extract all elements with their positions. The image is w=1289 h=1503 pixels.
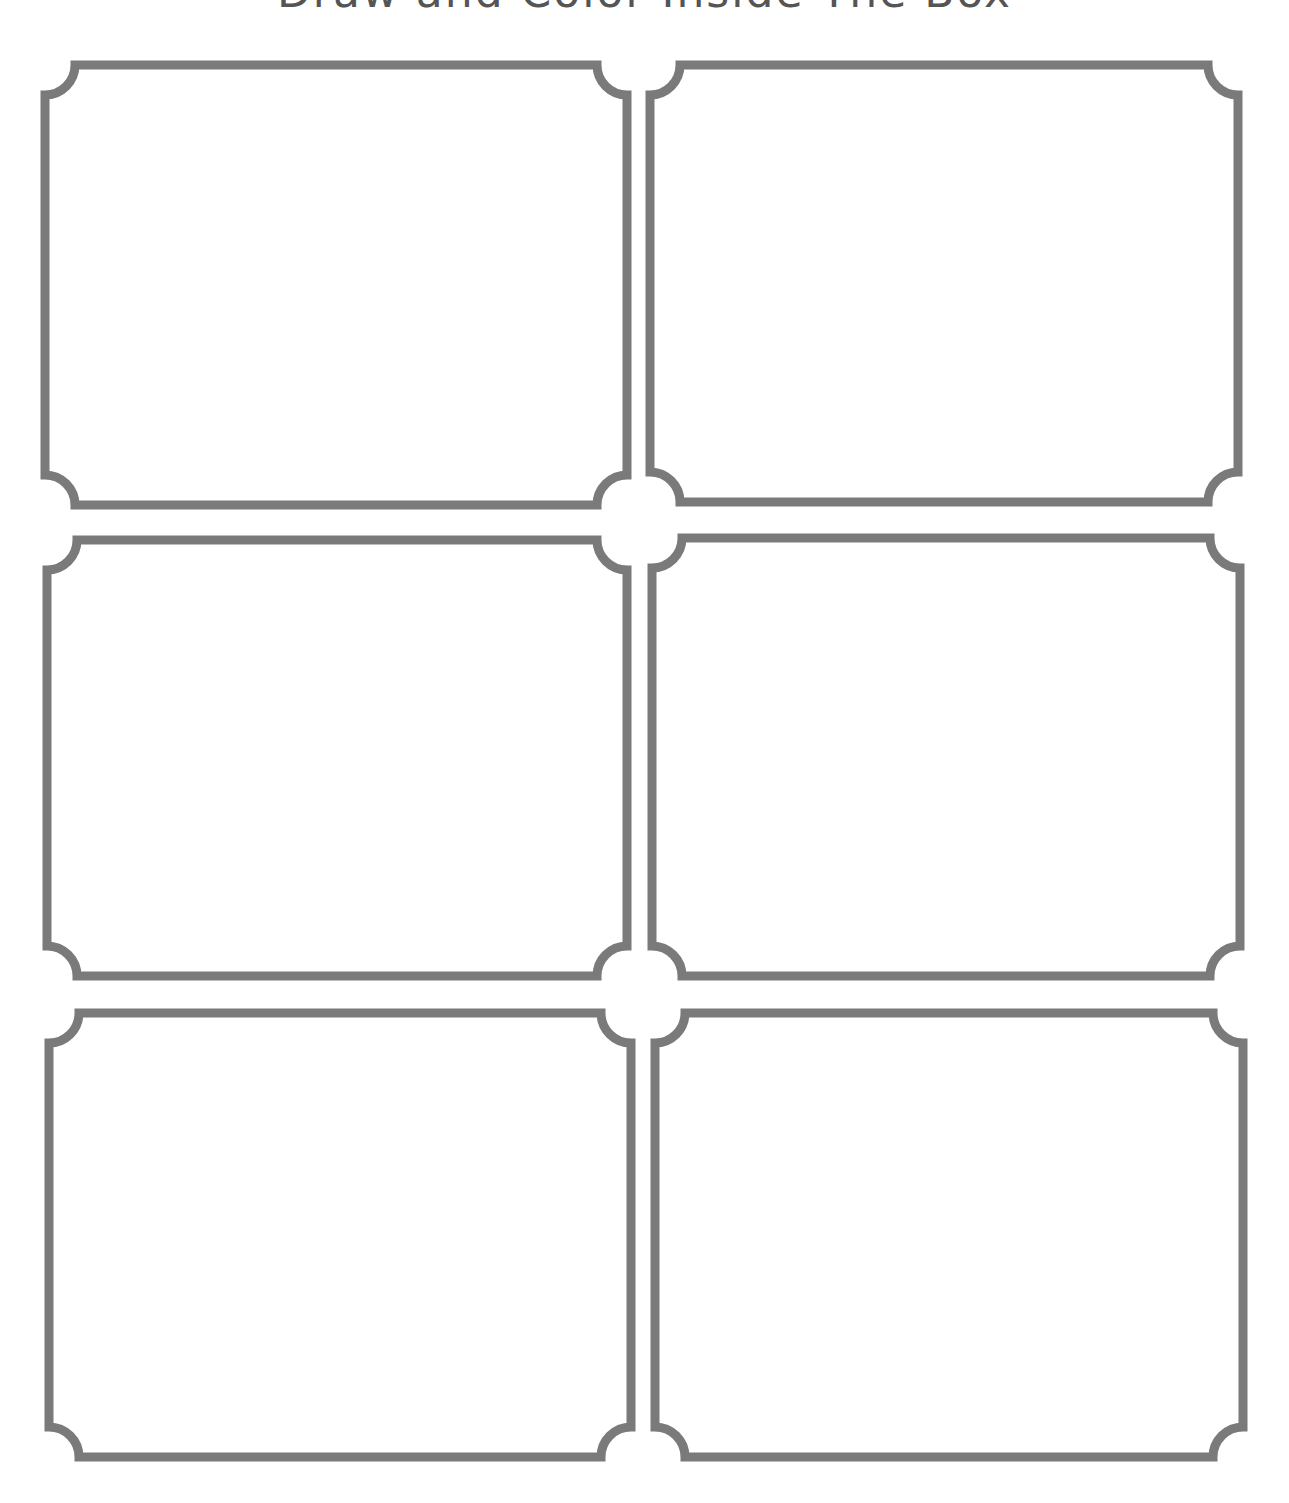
- frame-border-icon: [652, 538, 1240, 976]
- drawing-frame-2[interactable]: [650, 65, 1238, 502]
- drawing-frame-6[interactable]: [655, 1013, 1243, 1457]
- worksheet-title: Draw and Color Inside The Box: [0, 0, 1289, 14]
- drawing-frame-1[interactable]: [45, 65, 627, 505]
- frame-border-icon: [655, 1013, 1243, 1457]
- frame-border-icon: [49, 1013, 631, 1457]
- frame-border-icon: [45, 65, 627, 505]
- drawing-frame-4[interactable]: [652, 538, 1240, 976]
- frame-border-icon: [47, 540, 627, 976]
- drawing-frame-5[interactable]: [49, 1013, 631, 1457]
- frame-border-icon: [650, 65, 1238, 502]
- drawing-frame-3[interactable]: [47, 540, 627, 976]
